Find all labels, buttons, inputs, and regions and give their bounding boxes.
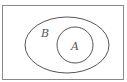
set-a-label: A (70, 40, 79, 53)
universal-set-rectangle (3, 6, 124, 80)
venn-diagram: B A (0, 0, 127, 82)
set-b-ellipse (25, 17, 109, 73)
set-b-label: B (40, 27, 49, 40)
